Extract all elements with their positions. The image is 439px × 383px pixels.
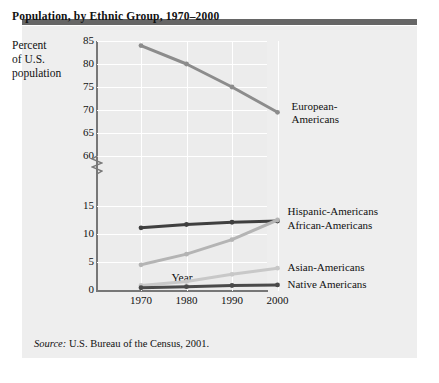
gridline-v-1970 (141, 41, 142, 291)
series-label-hispanic-americans: Hispanic-Americans (288, 205, 378, 218)
series-label-asian-americans: Asian-Americans (288, 261, 365, 274)
gridline-v-1990 (232, 41, 233, 291)
gridline-h-65 (97, 133, 267, 134)
gridline-h-70 (97, 110, 267, 111)
chart-figure: Population, by Ethnic Group, 1970–2000 P… (0, 0, 439, 383)
gridline-h-85 (97, 41, 267, 42)
axis-break-icon (91, 152, 103, 178)
y-tick-5: 5 (72, 255, 94, 267)
y-axis-tick-labels: 858075706560151050 (66, 41, 94, 291)
source-prefix: Source: (34, 338, 66, 349)
gridline-v-2000 (278, 41, 279, 291)
gridline-v-1980 (187, 41, 188, 291)
y-tick-80: 80 (72, 57, 94, 69)
x-tick-2000: 2000 (255, 294, 301, 306)
gridline-h-10 (97, 234, 267, 235)
series-label-african-americans: African-Americans (288, 219, 373, 232)
series-label-european-line1: European- (292, 100, 340, 113)
gridline-h-15 (97, 206, 267, 207)
series-label-european-americans: European- Americans (292, 100, 340, 126)
y-tick-15: 15 (72, 199, 94, 211)
y-tick-70: 70 (72, 103, 94, 115)
y-tick-65: 65 (72, 126, 94, 138)
x-axis-title: Year (97, 272, 267, 284)
gridline-h-75 (97, 87, 267, 88)
gridline-h-80 (97, 64, 267, 65)
x-tick-1990: 1990 (209, 294, 255, 306)
y-tick-0: 0 (72, 283, 94, 295)
x-axis-line (96, 290, 268, 292)
series-label-european-line2: Americans (292, 113, 340, 126)
x-tick-1980: 1980 (164, 294, 210, 306)
source-text: U.S. Bureau of the Census, 2001. (66, 338, 209, 349)
gridline-h-60 (97, 156, 267, 157)
chart-title: Population, by Ethnic Group, 1970–2000 (12, 10, 219, 22)
y-tick-85: 85 (72, 34, 94, 46)
plot-area (97, 41, 267, 291)
gridline-h-5 (97, 262, 267, 263)
source-note: Source: U.S. Bureau of the Census, 2001. (34, 338, 209, 349)
y-tick-75: 75 (72, 80, 94, 92)
x-tick-1970: 1970 (118, 294, 164, 306)
series-label-native-americans: Native Americans (288, 278, 367, 291)
y-tick-10: 10 (72, 227, 94, 239)
